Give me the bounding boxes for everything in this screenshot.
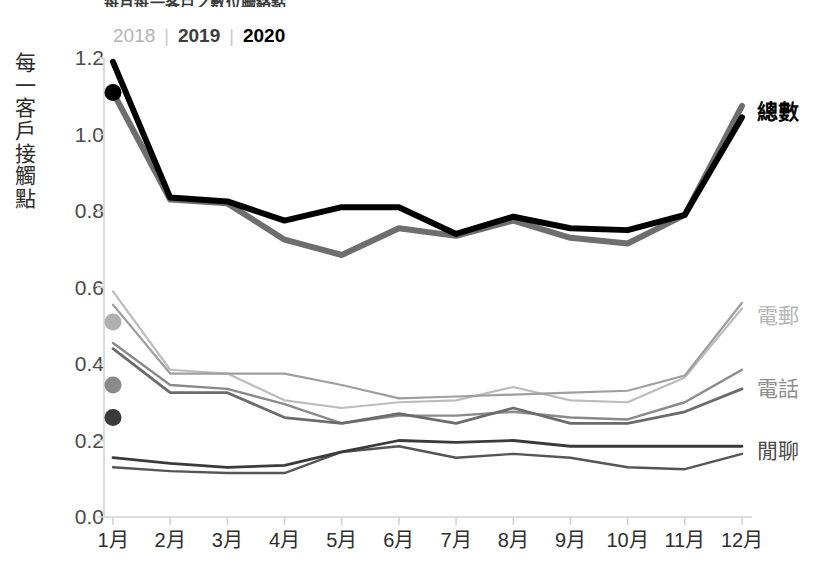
series-marker-dot: [105, 409, 122, 426]
series-markers: [105, 84, 122, 426]
series-line: [113, 291, 742, 408]
series-marker-dot: [105, 313, 122, 330]
series-label-email: 電郵: [757, 305, 799, 326]
series-line: [113, 62, 742, 234]
plot-area: [0, 0, 824, 571]
series-line: [113, 446, 742, 473]
series-line: [113, 303, 742, 399]
series-label-total: 總數: [757, 101, 799, 122]
series-marker-dot: [105, 377, 122, 394]
series-line: [113, 92, 742, 255]
series-lines: [113, 62, 742, 473]
series-marker-dot: [105, 84, 122, 101]
series-line: [113, 441, 742, 468]
series-label-phone: 電話: [757, 378, 799, 399]
series-label-chat: 閒聊: [757, 440, 799, 461]
series-line: [113, 343, 742, 423]
axis-lines: [97, 58, 752, 525]
chart-container: 每月每一客戶之數位聯絡點 2018 | 2019 | 2020 每一客戶接觸點 …: [0, 0, 824, 571]
